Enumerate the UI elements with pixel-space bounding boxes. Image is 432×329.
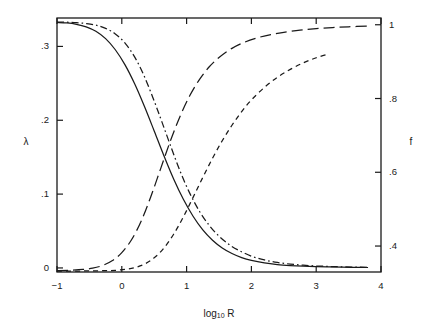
xtick-label-2: 1: [184, 281, 189, 291]
x-axis-title-suffix: R: [225, 308, 235, 319]
ytick-left-label-3: .3: [41, 42, 49, 52]
xtick-label-5: 4: [378, 281, 383, 291]
ytick-right-label-0: .4: [389, 241, 397, 251]
ytick-left-label-1: .1: [41, 189, 49, 199]
ytick-right-label-2: .8: [389, 94, 397, 104]
xtick-label-4: 3: [314, 281, 319, 291]
y-axis-left-title: λ: [24, 137, 29, 147]
ytick-left-label-2: .2: [41, 116, 49, 126]
plot-canvas: [0, 0, 432, 329]
xtick-label-1: 0: [119, 281, 124, 291]
x-axis-title-prefix: log: [203, 308, 216, 319]
xtick-label-3: 2: [249, 281, 254, 291]
figure-background: [0, 0, 432, 329]
ytick-left-label-0: 0: [44, 263, 49, 273]
xtick-label-0: −1: [52, 281, 63, 291]
x-axis-title: log10 R: [203, 309, 234, 319]
ytick-right-label-3: 1: [389, 20, 394, 30]
y-axis-right-title: f: [410, 137, 413, 147]
chart-figure: −1012340.1.2.3.4.6.81λflog10 R: [0, 0, 432, 329]
x-axis-title-subscript: 10: [217, 312, 225, 319]
ytick-right-label-1: .6: [389, 168, 397, 178]
